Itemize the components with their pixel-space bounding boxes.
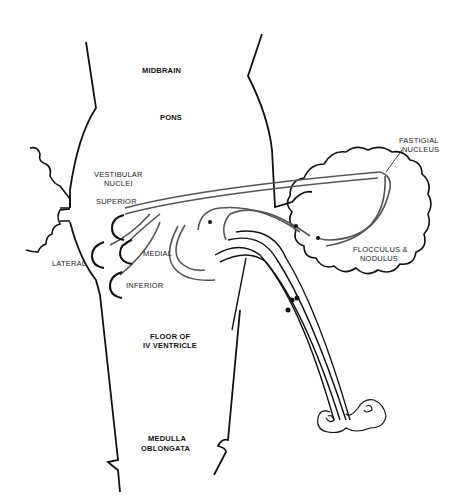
pathways bbox=[110, 172, 390, 280]
vestibular-nerve bbox=[215, 231, 350, 420]
superior-nucleus-icon bbox=[112, 215, 124, 240]
label-midbrain: MIDBRAIN bbox=[142, 66, 181, 75]
inner-ear-icon bbox=[318, 400, 386, 433]
label-nodulus: NODULUS bbox=[360, 254, 398, 263]
label-lateral: LATERAL bbox=[52, 259, 86, 268]
label-superior: SUPERIOR bbox=[96, 197, 137, 206]
lateral-nucleus-icon bbox=[92, 242, 104, 268]
fastigial-pointer bbox=[386, 150, 402, 172]
label-nucleus: NUCLEUS bbox=[402, 145, 439, 154]
label-vestibular: VESTIBULAR bbox=[94, 170, 143, 179]
label-oblongata: OBLONGATA bbox=[141, 444, 190, 453]
label-floor-of: FLOOR OF bbox=[150, 332, 190, 341]
inferior-nucleus-icon bbox=[110, 272, 122, 298]
left-lobes bbox=[26, 148, 70, 252]
label-pons: PONS bbox=[160, 113, 182, 122]
label-inferior: INFERIOR bbox=[126, 281, 163, 290]
label-medial: MEDIAL bbox=[143, 249, 172, 258]
label-iv-ventricle: IV VENTRICLE bbox=[143, 341, 197, 350]
medial-nucleus-icon bbox=[120, 240, 132, 264]
label-medulla: MEDULLA bbox=[148, 434, 186, 443]
label-fastigial: FASTIGIAL bbox=[399, 136, 439, 145]
brainstem-outline bbox=[70, 34, 312, 492]
label-flocculus: FLOCCULUS & bbox=[353, 245, 408, 254]
label-nuclei: NUCLEI bbox=[104, 179, 133, 188]
